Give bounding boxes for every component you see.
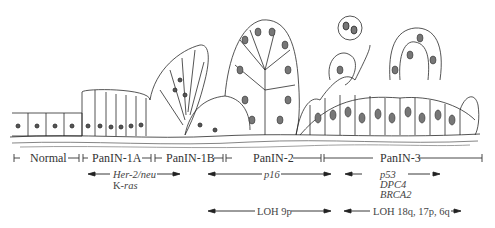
panin-1b-fold xyxy=(150,45,250,135)
panin-2-papilla xyxy=(225,20,299,135)
loh-18q-17p-6q: LOH 18q, 17p, 6q xyxy=(373,206,450,217)
normal-cells xyxy=(12,113,82,136)
panin-3-cells xyxy=(296,16,479,135)
gene-her2-neu: Her-2/neu xyxy=(113,169,156,180)
panin-1a-cells xyxy=(82,90,150,136)
stroma-line xyxy=(12,141,478,144)
gene-p16: p16 xyxy=(264,169,280,180)
stage-label-panin-1a: PanIN-1A xyxy=(92,152,141,164)
stage-label-panin-2: PanIN-2 xyxy=(253,152,294,164)
gene-brca2: BRCA2 xyxy=(380,189,412,200)
epithelium-illustration xyxy=(0,0,495,228)
stage-label-normal: Normal xyxy=(30,152,67,164)
loh-9p: LOH 9p xyxy=(257,206,292,217)
stage-label-panin-3: PanIN-3 xyxy=(380,152,421,164)
stage-label-panin-1b: PanIN-1B xyxy=(166,152,215,164)
gene-k-ras: K-ras xyxy=(113,180,138,191)
